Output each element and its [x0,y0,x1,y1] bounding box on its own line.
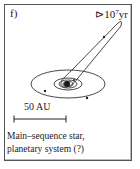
timescale-label: ⊳107yr [95,6,128,20]
planet-dot [86,97,88,99]
caption: Main–sequence star, planetary system (?) [7,130,85,156]
time-base: 10 [104,8,115,20]
greater-than-triangle-icon: ⊳ [95,8,104,20]
scale-bar-label: 50 AU [24,101,50,112]
panel-label: f) [10,7,17,19]
planet-dot [44,90,46,92]
planet-dot [73,79,75,81]
time-unit: yr [119,8,128,20]
comet-dot [103,36,105,38]
caption-line-2: planetary system (?) [7,143,85,156]
eccentric-orbit [61,21,122,87]
caption-line-1: Main–sequence star, [7,130,85,143]
